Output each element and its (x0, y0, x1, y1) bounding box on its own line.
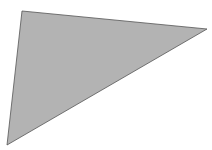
gray-triangle (7, 11, 207, 145)
diagram-canvas (0, 0, 212, 150)
